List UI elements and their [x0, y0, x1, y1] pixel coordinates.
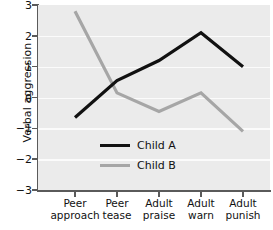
x-tick-mark [200, 191, 201, 197]
series-line-child-b [75, 11, 243, 131]
plot-area: Child AChild B [38, 5, 270, 190]
y-tick-label: 2 [25, 29, 32, 42]
y-tick-label: 1 [25, 60, 32, 73]
legend-item: Child B [100, 159, 176, 172]
legend-label: Child B [137, 159, 176, 172]
x-axis-tick-labels: PeerapproachPeerteaseAdultpraiseAdultwar… [0, 198, 273, 230]
y-tick-label: −2 [16, 153, 32, 166]
x-tick-label-line: punish [211, 210, 273, 222]
y-tick-label: 0 [25, 91, 32, 104]
y-tick-mark [32, 128, 38, 129]
x-tick-mark [242, 191, 243, 197]
y-axis-tick-labels: 3210−1−2−3 [0, 0, 36, 230]
legend-label: Child A [137, 139, 176, 152]
legend-swatch [100, 164, 130, 167]
x-tick-label-line: Adult [211, 198, 273, 210]
y-tick-label: −3 [16, 184, 32, 197]
y-tick-label: 3 [25, 0, 32, 12]
x-tick-label: Adultpunish [211, 198, 273, 221]
line-chart: Verbal aggression 3210−1−2−3 Child AChil… [0, 0, 273, 230]
y-tick-mark [32, 4, 38, 5]
y-tick-label: −1 [16, 122, 32, 135]
y-tick-mark [32, 97, 38, 98]
x-tick-mark [158, 191, 159, 197]
y-tick-mark [32, 189, 38, 190]
series-line-child-a [75, 33, 243, 118]
x-axis-line [37, 190, 271, 192]
y-tick-mark [32, 158, 38, 159]
x-tick-mark [116, 191, 117, 197]
x-tick-mark [74, 191, 75, 197]
y-tick-mark [32, 66, 38, 67]
legend-swatch [100, 144, 130, 147]
legend: Child AChild B [100, 139, 176, 172]
y-tick-mark [32, 35, 38, 36]
legend-item: Child A [100, 139, 176, 152]
